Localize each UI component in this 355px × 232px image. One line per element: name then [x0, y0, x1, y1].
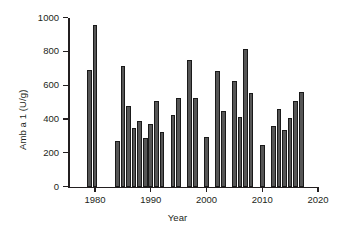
bar	[176, 98, 181, 187]
bar	[232, 81, 237, 187]
bar	[148, 124, 153, 187]
x-tick-label: 2010	[242, 195, 282, 205]
bar	[299, 92, 304, 186]
bar	[288, 118, 293, 186]
amb-a-1-bar-chart: 02004006008001000 19801990200020102020 A…	[0, 0, 355, 232]
y-tick-label: 800	[43, 46, 59, 56]
x-axis-title: Year	[0, 212, 355, 223]
y-tick-label: 400	[43, 114, 59, 124]
y-tick-label: 200	[43, 148, 59, 158]
bar	[238, 117, 243, 186]
bar	[221, 111, 226, 187]
x-tick-mark	[94, 187, 95, 192]
bar	[160, 132, 165, 187]
bar	[126, 106, 131, 187]
x-tick-mark	[206, 187, 207, 192]
x-tick-mark	[150, 187, 151, 192]
bar	[143, 138, 148, 186]
x-axis-line	[68, 187, 318, 189]
bar	[271, 126, 276, 187]
x-tick-mark	[317, 187, 318, 192]
bar	[204, 137, 209, 187]
bar	[249, 93, 254, 187]
bar	[277, 109, 282, 187]
y-tick-label: 0	[54, 182, 59, 192]
bar	[282, 130, 287, 187]
x-tick-label: 2020	[298, 195, 338, 205]
y-axis-line	[68, 18, 70, 188]
x-tick-label: 1990	[131, 195, 171, 205]
bar	[260, 145, 265, 187]
bar	[154, 101, 159, 187]
y-tick-mark	[63, 17, 68, 18]
x-tick-mark	[262, 187, 263, 192]
bar	[193, 98, 198, 187]
bar	[171, 115, 176, 187]
bar	[187, 60, 192, 187]
y-tick-mark	[63, 85, 68, 86]
bar	[121, 66, 126, 187]
bar	[132, 128, 137, 186]
bar	[93, 25, 98, 186]
y-tick-label: 1000	[38, 13, 59, 23]
y-tick-mark	[63, 118, 68, 119]
bar	[293, 101, 298, 187]
plot-area: 02004006008001000 19801990200020102020	[0, 0, 355, 232]
bar	[137, 121, 142, 187]
bar	[243, 49, 248, 187]
bar	[215, 71, 220, 187]
y-tick-mark	[63, 51, 68, 52]
y-tick-mark	[63, 152, 68, 153]
y-axis-title: Amb a 1 (U/g)	[17, 90, 28, 150]
bar	[115, 141, 120, 186]
x-tick-label: 1980	[75, 195, 115, 205]
bar	[87, 70, 92, 187]
x-tick-label: 2000	[187, 195, 227, 205]
y-tick-label: 600	[43, 80, 59, 90]
y-tick-mark	[63, 186, 68, 187]
